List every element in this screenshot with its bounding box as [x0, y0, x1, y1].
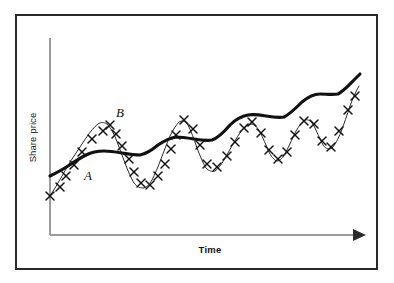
- x-axis-arrow-icon: [353, 229, 366, 241]
- marker-x-icon: [240, 124, 248, 132]
- marker-x-icon: [78, 148, 86, 156]
- marker-x-icon: [56, 183, 64, 191]
- marker-x-icon: [196, 141, 204, 149]
- series-b-markers: [46, 92, 359, 200]
- marker-x-icon: [125, 155, 133, 163]
- marker-x-icon: [300, 117, 308, 125]
- marker-x-icon: [231, 138, 239, 146]
- curve-a-label: A: [84, 168, 92, 184]
- marker-x-icon: [161, 160, 169, 168]
- marker-x-icon: [248, 118, 256, 126]
- marker-x-icon: [62, 172, 70, 180]
- marker-x-icon: [88, 135, 96, 143]
- marker-x-icon: [154, 172, 162, 180]
- chart-figure: Share price Time A B: [0, 0, 394, 283]
- curve-b-label: B: [116, 105, 124, 121]
- marker-x-icon: [223, 152, 231, 160]
- marker-x-icon: [118, 142, 126, 150]
- x-axis-label: Time: [150, 244, 270, 255]
- marker-x-icon: [327, 143, 335, 151]
- marker-x-icon: [180, 116, 188, 124]
- marker-x-icon: [130, 168, 138, 176]
- marker-x-icon: [257, 129, 265, 137]
- y-axis-label: Share price: [27, 88, 38, 188]
- chart-canvas: [0, 0, 394, 283]
- marker-x-icon: [137, 179, 145, 187]
- marker-x-icon: [167, 145, 175, 153]
